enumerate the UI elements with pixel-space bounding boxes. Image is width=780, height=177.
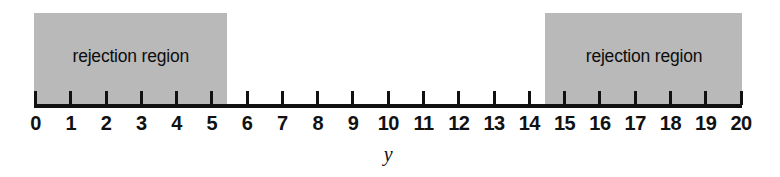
axis-tick-label: 0 [30, 112, 41, 135]
axis-tick-label: 14 [519, 112, 540, 135]
axis-variable-label: y [384, 143, 393, 166]
axis-tick [704, 91, 707, 105]
axis-tick-label: 17 [625, 112, 646, 135]
axis-tick [422, 91, 425, 105]
axis-tick [69, 91, 72, 105]
axis-tick [457, 91, 460, 105]
axis-tick [598, 91, 601, 105]
axis-tick [316, 91, 319, 105]
axis-tick-label: 16 [589, 112, 610, 135]
right-rejection-region-label: rejection region [586, 46, 702, 67]
axis-tick-label: 6 [242, 112, 253, 135]
axis-tick-label: 5 [207, 112, 218, 135]
axis-tick-label: 10 [378, 112, 399, 135]
axis-tick [210, 91, 213, 105]
axis-tick [246, 91, 249, 105]
axis-tick [387, 91, 390, 105]
axis-tick-label: 19 [695, 112, 716, 135]
left-rejection-region-label: rejection region [73, 46, 189, 67]
axis-tick [175, 91, 178, 105]
axis-tick-label: 4 [171, 112, 182, 135]
axis-tick [140, 91, 143, 105]
axis-tick-label: 12 [448, 112, 469, 135]
axis-tick [34, 91, 37, 105]
axis-tick-label: 13 [483, 112, 504, 135]
axis-tick [528, 91, 531, 105]
axis-tick [105, 91, 108, 105]
axis-tick [281, 91, 284, 105]
axis-tick-label: 20 [730, 112, 751, 135]
axis-tick-label: 15 [554, 112, 575, 135]
axis-tick-label: 7 [277, 112, 288, 135]
axis-tick [493, 91, 496, 105]
axis-tick [563, 91, 566, 105]
axis-tick [740, 91, 743, 105]
axis-tick-label: 8 [312, 112, 323, 135]
axis-tick-label: 11 [413, 112, 433, 135]
axis-tick-label: 2 [101, 112, 112, 135]
rejection-region-figure: rejection region rejection region 012345… [0, 0, 780, 177]
axis-tick-label: 3 [136, 112, 147, 135]
axis-tick [669, 91, 672, 105]
axis-tick-label: 1 [65, 112, 76, 135]
axis-tick-label: 18 [660, 112, 681, 135]
axis-tick-label: 9 [348, 112, 359, 135]
axis-tick [351, 91, 354, 105]
axis-tick [634, 91, 637, 105]
